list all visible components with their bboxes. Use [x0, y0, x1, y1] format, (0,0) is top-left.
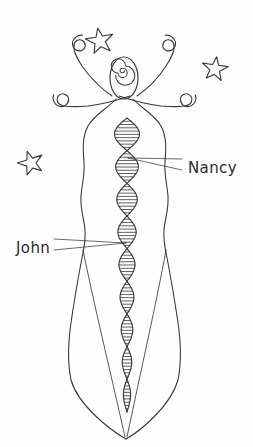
label-nancy: Nancy [188, 159, 237, 177]
drawing-scene: NancyJohn [0, 0, 253, 447]
sketch-canvas: NancyJohn [0, 0, 253, 447]
label-john: John [15, 239, 50, 257]
